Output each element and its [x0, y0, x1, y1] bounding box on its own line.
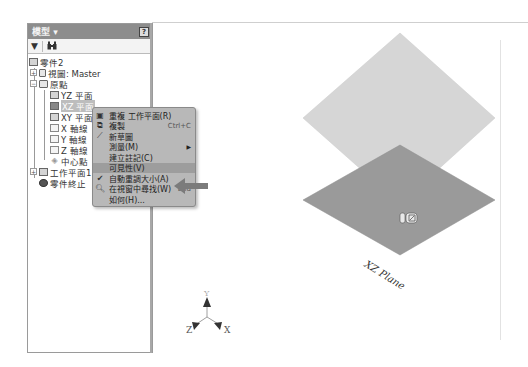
- xz-plane[interactable]: [303, 145, 495, 255]
- point-icon: ◈: [50, 157, 59, 165]
- tree-node-root[interactable]: 零件2: [28, 56, 152, 67]
- sketch-icon: ⟋: [93, 131, 107, 141]
- menu-item-visibility[interactable]: 可見性(V): [93, 163, 195, 174]
- help-icon[interactable]: ?: [139, 27, 149, 37]
- axis-icon: [50, 146, 59, 154]
- copy-icon: ⧉: [93, 121, 107, 131]
- window-top-border: [152, 22, 528, 23]
- expand-icon[interactable]: +: [30, 168, 37, 175]
- submenu-arrow-icon: ▶: [186, 143, 195, 150]
- axis-triad[interactable]: Y Z X: [186, 287, 256, 347]
- view-icon: [39, 69, 46, 77]
- z-axis-arrow-icon: [192, 322, 200, 330]
- check-icon: ✔: [93, 174, 107, 183]
- y-axis-label: Y: [203, 289, 210, 298]
- x-axis-arrow-icon: [214, 322, 222, 330]
- menu-item-repeat[interactable]: ▣ 重複 工作平面(R): [93, 110, 195, 121]
- pointer-arrow-icon: [174, 178, 210, 194]
- binoculars-icon[interactable]: [47, 41, 57, 52]
- filter-icon[interactable]: ▼: [31, 41, 38, 51]
- find-icon: 🔍︎: [93, 184, 107, 193]
- panel-toolbar: ▼: [28, 39, 152, 54]
- collapse-icon[interactable]: −: [30, 80, 37, 87]
- panel-header[interactable]: 模型 ▾ ?: [28, 24, 152, 39]
- folder-icon: [39, 80, 48, 88]
- end-of-part-icon: [39, 179, 48, 187]
- tree-node-view[interactable]: + 視圖: Master: [28, 67, 152, 78]
- axis-icon: [50, 124, 59, 132]
- menu-item-create-note[interactable]: 建立註記(C): [93, 152, 195, 163]
- menu-item-new-sketch[interactable]: ⟋ 新草圖: [93, 131, 195, 142]
- x-axis-label: X: [224, 325, 231, 335]
- tree-node-yz-plane[interactable]: YZ 平面: [28, 89, 152, 100]
- plane-label: XZ Plane: [362, 258, 407, 292]
- part-icon: [29, 58, 38, 66]
- plane-icon: [50, 91, 59, 99]
- viewport-3d[interactable]: XZ Plane: [290, 30, 520, 340]
- menu-item-copy[interactable]: ⧉ 複製 Ctrl+C: [93, 121, 195, 132]
- plane-icon: [50, 102, 59, 110]
- plane-icon: [50, 113, 59, 121]
- tree-node-origin[interactable]: − 原點: [28, 78, 152, 89]
- work-plane-icon: [39, 168, 48, 176]
- z-axis-label: Z: [186, 325, 192, 335]
- axis-icon: [50, 135, 59, 143]
- panel-title[interactable]: 模型 ▾: [32, 25, 58, 38]
- expand-icon[interactable]: +: [30, 69, 37, 76]
- menu-item-measure[interactable]: 測量(M) ▶: [93, 142, 195, 153]
- y-axis-arrow-icon: [203, 297, 211, 307]
- plane-grip-icon[interactable]: [400, 213, 417, 223]
- repeat-icon: ▣: [93, 111, 107, 120]
- menu-item-how-to[interactable]: 如何(H)...: [93, 194, 195, 205]
- toolbar-separator: [42, 41, 43, 52]
